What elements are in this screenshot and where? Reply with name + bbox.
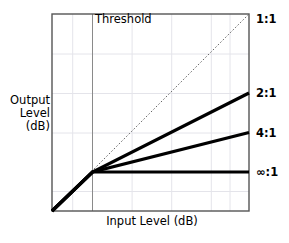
- ratio-label-2-to-1: 2:1: [256, 87, 277, 100]
- ratio-label-1-to-1: 1:1: [256, 13, 277, 26]
- y-axis-label: Output Level (dB): [0, 94, 50, 133]
- x-axis-label: Input Level (dB): [56, 215, 248, 228]
- ratio-label-4-to-1: 4:1: [256, 127, 277, 140]
- threshold-label: Threshold: [95, 13, 152, 26]
- ratio-label-infinity-to-1: ∞:1: [256, 166, 278, 179]
- compressor-ratio-figure: Threshold Output Level (dB) Input Level …: [0, 0, 289, 243]
